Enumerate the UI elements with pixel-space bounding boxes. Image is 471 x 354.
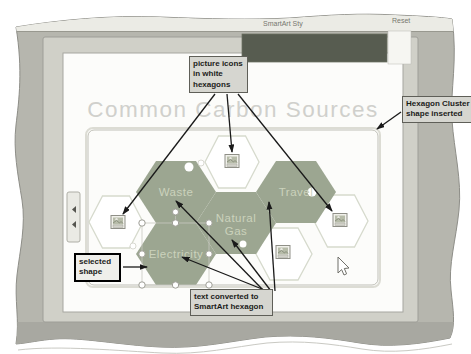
hexagon-label-gas: Gas bbox=[225, 225, 248, 237]
text-pane-toggle[interactable] bbox=[67, 192, 80, 242]
callout-line: shape bbox=[79, 267, 116, 277]
callout-line: selected bbox=[79, 257, 116, 267]
callout-hexagon-cluster: Hexagon Cluster shape inserted bbox=[402, 96, 471, 123]
slide-title[interactable]: Common Carbon Sources bbox=[87, 97, 379, 122]
ribbon-white-patch bbox=[388, 31, 411, 64]
picture-icon[interactable] bbox=[225, 155, 239, 168]
accent-dot bbox=[185, 163, 194, 172]
selection-handle[interactable] bbox=[206, 282, 212, 288]
selection-handle[interactable] bbox=[139, 251, 145, 257]
callout-line: SmartArt hexagon bbox=[194, 302, 269, 312]
selection-handle[interactable] bbox=[139, 220, 145, 226]
hexagon-label-waste: Waste bbox=[159, 186, 194, 198]
accent-dot-outline bbox=[130, 243, 136, 249]
callout-selected-shape: selected shape bbox=[74, 253, 121, 282]
callout-line: hexagons bbox=[193, 80, 244, 90]
selection-handle[interactable] bbox=[139, 282, 145, 288]
ribbon-strip bbox=[10, 14, 458, 31]
accent-dot-outline bbox=[198, 160, 204, 166]
callout-line: in white bbox=[193, 69, 244, 79]
ribbon-group-label: SmartArt Sty bbox=[263, 20, 303, 28]
picture-icon[interactable] bbox=[333, 214, 347, 227]
ribbon-gallery-fragment bbox=[242, 34, 387, 62]
hexagon-label-natural: Natural bbox=[216, 212, 257, 224]
selection-handle[interactable] bbox=[206, 251, 212, 257]
selection-handle[interactable] bbox=[172, 220, 178, 226]
selection-handle[interactable] bbox=[172, 282, 178, 288]
callout-line: picture icons bbox=[193, 59, 244, 69]
reset-button-label[interactable]: Reset bbox=[392, 17, 410, 24]
picture-icon[interactable] bbox=[111, 216, 125, 229]
window-bottom-shade bbox=[16, 322, 456, 348]
picture-icon[interactable] bbox=[276, 246, 290, 259]
accent-dot bbox=[240, 241, 247, 248]
selection-handle[interactable] bbox=[206, 220, 212, 226]
callout-line: shape inserted bbox=[406, 109, 468, 119]
callout-line: text converted to bbox=[194, 292, 269, 302]
callout-text-converted: text converted to SmartArt hexagon bbox=[190, 289, 273, 316]
hexagon-label-travel: Travel bbox=[279, 186, 314, 198]
callout-picture-icons: picture icons in white hexagons bbox=[189, 56, 248, 93]
callout-line: Hexagon Cluster bbox=[406, 99, 468, 109]
hexagon-label-electricity: Electricity bbox=[149, 248, 204, 260]
figure-smartart-screenshot: SmartArt Sty Reset Common Carbon Sources bbox=[0, 0, 471, 354]
rotation-handle[interactable] bbox=[173, 209, 179, 215]
